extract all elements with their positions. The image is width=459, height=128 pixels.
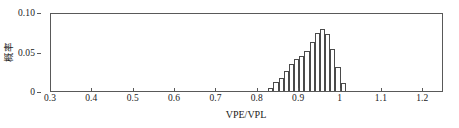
x-tick-label: 1.1 <box>375 93 387 103</box>
x-axis-title: VPE/VPL <box>226 109 267 120</box>
x-tick-label: 1.2 <box>416 93 428 103</box>
x-tick-mark <box>133 88 134 92</box>
x-tick-label: 0.9 <box>292 93 304 103</box>
x-tick-mark <box>50 88 51 92</box>
x-tick-label: 0.8 <box>251 93 263 103</box>
x-tick-mark <box>381 88 382 92</box>
x-tick-label: 1 <box>337 93 342 103</box>
x-tick-label: 0.6 <box>168 93 180 103</box>
x-tick-label: 0.5 <box>127 93 139 103</box>
x-tick-mark <box>174 88 175 92</box>
x-tick-mark <box>215 88 216 92</box>
x-tick-label: 0.3 <box>44 93 56 103</box>
x-tick-mark <box>340 88 341 92</box>
x-tick-mark <box>422 88 423 92</box>
x-tick-mark <box>298 88 299 92</box>
x-tick-label: 0.7 <box>209 93 221 103</box>
x-tick-mark <box>91 88 92 92</box>
x-tick-label: 0.4 <box>85 93 97 103</box>
x-tick-mark <box>257 88 258 92</box>
histogram-figure: 概率 00.050.10 0.30.40.50.60.70.80.911.11.… <box>0 0 459 128</box>
